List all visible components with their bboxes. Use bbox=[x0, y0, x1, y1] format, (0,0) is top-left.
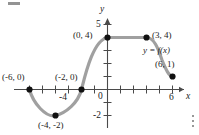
scan-artifact-corner bbox=[192, 115, 195, 129]
y-tick-label-neg2: -2 bbox=[93, 111, 101, 121]
x-axis-label: x bbox=[186, 92, 190, 102]
point-neg4-neg2 bbox=[52, 112, 58, 118]
point-label-6-1: (6, 1) bbox=[155, 60, 175, 69]
y-axis-label: y bbox=[100, 5, 104, 15]
point-3-4 bbox=[143, 34, 149, 40]
graph-figure: y x -4 6 5 -2 0 (-6, 0) (-2, 0) (-4, -2)… bbox=[0, 0, 199, 135]
point-label-neg6-0: (-6, 0) bbox=[2, 73, 25, 82]
point-label-neg2-0: (-2, 0) bbox=[55, 73, 78, 82]
x-tick-label-neg4: -4 bbox=[59, 93, 67, 103]
function-label: y = f(x) bbox=[143, 46, 170, 55]
point-neg6-0 bbox=[26, 86, 32, 92]
y-tick-label-5: 5 bbox=[96, 20, 101, 30]
point-0-4 bbox=[104, 34, 110, 40]
origin-label: 0 bbox=[98, 92, 103, 102]
point-label-3-4: (3, 4) bbox=[152, 31, 172, 40]
point-label-neg4-neg2: (-4, -2) bbox=[38, 121, 64, 130]
point-6-1 bbox=[169, 73, 175, 79]
point-neg2-0 bbox=[78, 86, 84, 92]
point-label-0-4: (0, 4) bbox=[73, 31, 93, 40]
x-tick-label-6: 6 bbox=[169, 93, 174, 103]
